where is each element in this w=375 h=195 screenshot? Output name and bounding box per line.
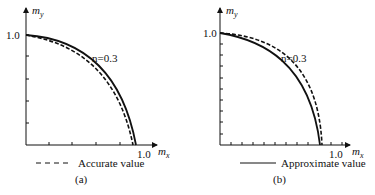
panel-b-dashed-curve <box>220 33 322 145</box>
panel-a-caption: (a) <box>75 174 87 185</box>
panel-a-annotation: n=0.3 <box>92 53 117 64</box>
panel-b-solid-curve <box>220 33 320 145</box>
panel-b-caption: (b) <box>273 174 286 185</box>
panel-a-solid-curve <box>26 35 136 145</box>
panel-b-ylabel: my <box>226 5 238 19</box>
panel-b-annotation: n=0.3 <box>281 53 306 64</box>
panel-a-legend: Accurate value <box>78 158 144 169</box>
panel-b-legend: Approximate value <box>281 158 366 169</box>
panel-a-axes <box>26 8 157 145</box>
panel-a-ylabel: my <box>32 5 44 19</box>
panel-b-ytick: 1.0 <box>203 28 217 39</box>
panel-a-ytick: 1.0 <box>6 30 20 41</box>
panel-b-axes <box>220 8 350 145</box>
panel-a-xlabel: mx <box>158 146 170 160</box>
